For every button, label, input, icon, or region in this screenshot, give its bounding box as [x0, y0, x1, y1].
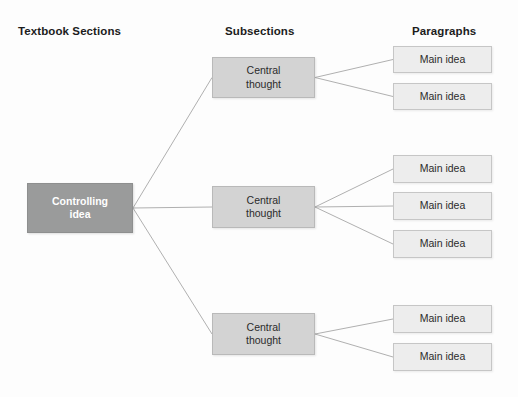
node-central-thought[interactable]: Central thought — [212, 57, 315, 98]
node-main-idea[interactable]: Main idea — [393, 192, 492, 220]
node-main-idea[interactable]: Main idea — [393, 343, 492, 371]
node-central-thought[interactable]: Central thought — [212, 313, 315, 355]
connector-line — [133, 208, 212, 334]
node-main-idea[interactable]: Main idea — [393, 46, 492, 73]
diagram-canvas: Textbook Sections Subsections Paragraphs… — [0, 0, 518, 397]
node-main-idea[interactable]: Main idea — [393, 155, 492, 183]
node-main-idea[interactable]: Main idea — [393, 305, 492, 333]
connector-line — [133, 207, 212, 208]
connector-line — [315, 207, 393, 244]
column-header-subsections: Subsections — [225, 25, 294, 37]
connector-line — [315, 78, 393, 97]
node-main-idea[interactable]: Main idea — [393, 230, 492, 258]
connector-line — [133, 78, 212, 209]
connector-line — [315, 206, 393, 207]
column-header-paragraphs: Paragraphs — [412, 25, 476, 37]
node-main-idea[interactable]: Main idea — [393, 83, 492, 110]
node-controlling-idea[interactable]: Controlling idea — [27, 183, 133, 233]
column-header-textbook-sections: Textbook Sections — [18, 25, 121, 37]
node-central-thought[interactable]: Central thought — [212, 186, 315, 228]
connector-line — [315, 169, 393, 207]
connector-line — [315, 334, 393, 357]
connector-line — [315, 319, 393, 334]
connector-line — [315, 60, 393, 78]
